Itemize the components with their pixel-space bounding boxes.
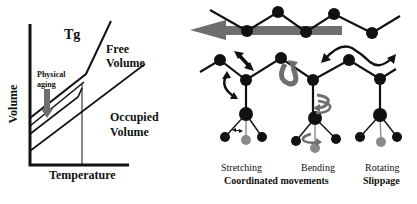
rotating-label: Rotating	[365, 163, 399, 173]
x-axis-label: Temperature	[49, 169, 116, 181]
bending-group	[291, 111, 341, 153]
free-volume-line2: Volume	[106, 56, 145, 70]
coordinated-movements-label: Coordinated movements	[224, 176, 329, 186]
y-axis-label: Volume	[7, 85, 19, 124]
rotating-group	[355, 108, 402, 147]
stretching-label: Stretching	[221, 163, 262, 173]
physical-aging-line1: Physical	[37, 70, 65, 80]
rotation-arrow-icon	[281, 60, 298, 84]
physical-aging-label: Physical aging	[37, 70, 65, 90]
bond-stretch-arrow-icon	[234, 51, 254, 71]
crankshaft-wave-arrow-icon	[321, 46, 396, 65]
free-volume-label: Free Volume	[106, 42, 145, 70]
slippage-label: Slippage	[363, 176, 400, 186]
tg-label: Tg	[64, 28, 80, 42]
bond-bend-arrow-icon	[222, 71, 238, 99]
physical-aging-line2: aging	[37, 80, 65, 90]
occupied-volume-label: Occupied Volume	[110, 110, 159, 140]
stretch-double-arrow-icon	[232, 128, 243, 133]
physical-aging-arrow	[41, 89, 53, 118]
slippage-chain	[190, 6, 400, 40]
bending-label: Bending	[301, 163, 335, 173]
stretching-group	[220, 107, 267, 145]
occupied-volume-line2: Volume	[110, 125, 159, 140]
coordinated-chain	[200, 58, 396, 118]
free-volume-line1: Free	[106, 42, 145, 56]
occupied-volume-line1: Occupied	[110, 110, 159, 125]
